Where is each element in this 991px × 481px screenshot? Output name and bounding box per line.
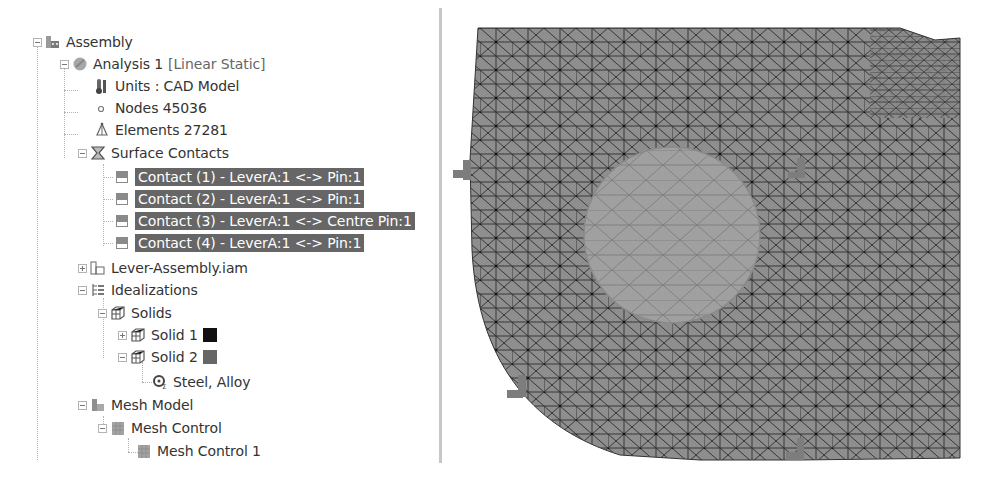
expand-toggle[interactable] [118,331,127,340]
contact-icon [114,191,130,207]
tree-item-label: Steel, Alloy [173,374,250,390]
model-browser-tree: Assembly Analysis 1 [Linear Static] Unit… [0,0,430,481]
tree-connector [37,46,38,460]
tree-connector [64,112,78,113]
tree-item-solid-1[interactable]: Solid 1 [118,324,217,346]
tree-item-label: Surface Contacts [111,145,229,161]
tree-item-contact[interactable]: Contact (4) - LeverA:1 <-> Pin:1 [114,232,364,254]
idealizations-icon [90,282,106,298]
mesh-control-icon [136,443,152,459]
tree-item-label: Solid 1 [151,327,198,343]
tree-item-nodes[interactable]: Nodes 45036 [94,97,207,119]
tree-item-material[interactable]: Σ Steel, Alloy [152,371,250,393]
tree-item-label: Solid 2 [151,349,198,365]
tree-item-idealizations[interactable]: Idealizations [78,279,198,301]
tree-item-label: Assembly [66,34,133,50]
solid-icon [130,327,146,343]
assembly-icon [45,34,61,50]
contact-icon [114,235,130,251]
solids-icon [110,305,126,321]
tree-item-mesh-control-1[interactable]: Mesh Control 1 [136,440,261,462]
tree-item-units[interactable]: Units : CAD Model [94,75,239,97]
tree-connector [103,199,113,200]
node-icon [94,100,110,116]
element-icon [94,122,110,138]
tree-item-contact[interactable]: Contact (1) - LeverA:1 <-> Pin:1 [114,166,364,188]
tree-item-label: Elements 27281 [115,122,228,138]
fe-mesh-view [445,0,991,481]
tree-connector [64,134,78,135]
tree-item-label: Units : CAD Model [115,78,239,94]
tree-connector [103,177,113,178]
collapse-toggle[interactable] [98,309,107,318]
tree-connector [103,221,113,222]
collapse-toggle[interactable] [118,353,127,362]
tree-item-label: Idealizations [111,282,198,298]
tree-item-surface-contacts[interactable]: Surface Contacts [78,142,229,164]
tree-item-label: Mesh Control [131,420,222,436]
solid-color-swatch [203,328,217,342]
collapse-toggle[interactable] [60,60,69,69]
collapse-toggle[interactable] [78,286,87,295]
tree-item-label: Contact (3) - LeverA:1 <-> Centre Pin:1 [135,212,415,230]
tree-item-label: Contact (4) - LeverA:1 <-> Pin:1 [135,234,364,252]
solid-icon [130,349,146,365]
mesh-control-icon [110,420,126,436]
units-icon [94,78,110,94]
tree-item-assembly[interactable]: Assembly [33,31,133,53]
collapse-toggle[interactable] [98,424,107,433]
tree-item-label: Contact (2) - LeverA:1 <-> Pin:1 [135,190,364,208]
tree-item-analysis[interactable]: Analysis 1 [Linear Static] [60,53,265,75]
tree-item-label: Mesh Model [111,397,193,413]
graphics-viewport[interactable] [445,0,991,481]
collapse-toggle[interactable] [78,401,87,410]
tree-item-mesh-model[interactable]: Mesh Model [78,394,193,416]
tree-connector [103,243,113,244]
surface-contacts-icon [90,145,106,161]
solid-color-swatch [203,350,217,364]
assembly-icon [90,260,106,276]
tree-item-lever-assembly[interactable]: Lever-Assembly.iam [78,257,248,279]
tree-item-solids[interactable]: Solids [98,302,172,324]
collapse-toggle[interactable] [78,149,87,158]
expand-toggle[interactable] [78,264,87,273]
tree-item-contact[interactable]: Contact (3) - LeverA:1 <-> Centre Pin:1 [114,210,415,232]
tree-item-label: Mesh Control 1 [157,443,261,459]
pane-splitter[interactable] [439,8,442,463]
tree-connector [64,90,78,91]
tree-connector [128,438,129,452]
tree-item-label: Lever-Assembly.iam [111,260,248,276]
collapse-toggle[interactable] [33,38,42,47]
material-icon: Σ [152,374,168,390]
tree-item-elements[interactable]: Elements 27281 [94,119,228,141]
tree-item-label: Analysis 1 [93,56,163,72]
tree-item-contact[interactable]: Contact (2) - LeverA:1 <-> Pin:1 [114,188,364,210]
tree-item-label: Solids [131,305,172,321]
tree-item-solid-2[interactable]: Solid 2 [118,346,217,368]
contact-icon [114,213,130,229]
tree-item-mesh-control[interactable]: Mesh Control [98,417,222,439]
analysis-type-tag: [Linear Static] [168,56,265,72]
svg-text:Σ: Σ [162,383,166,390]
tree-connector [64,68,65,158]
tree-item-label: Contact (1) - LeverA:1 <-> Pin:1 [135,168,364,186]
tree-connector [142,382,152,383]
mesh-model-icon [90,397,106,413]
contact-icon [114,169,130,185]
analysis-icon [72,56,88,72]
tree-item-label: Nodes 45036 [115,100,207,116]
constraint-glyph [453,160,471,180]
